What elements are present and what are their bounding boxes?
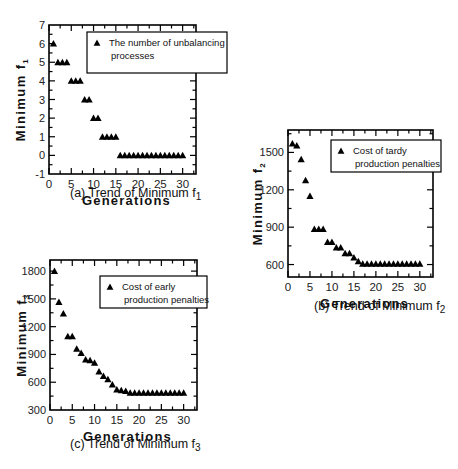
x-tick-label: 20 <box>133 414 146 426</box>
y-tick-label: 300 <box>28 404 46 416</box>
y-tick-label: 7 <box>39 19 45 31</box>
x-tick-label: 20 <box>369 281 382 293</box>
x-tick-label: 0 <box>46 178 52 190</box>
x-tick-label: 15 <box>348 281 361 293</box>
data-point <box>55 299 62 305</box>
svg-text:Minimum f3: Minimum f3 <box>14 293 31 376</box>
data-point <box>180 389 187 395</box>
legend-label: Cost of early <box>122 281 176 292</box>
svg-text:Minimum f2: Minimum f2 <box>250 162 267 245</box>
data-point <box>77 77 84 83</box>
data-point <box>306 192 313 198</box>
x-tick-label: 30 <box>177 414 190 426</box>
y-axis-label: Minimum f3 <box>14 293 31 376</box>
x-tick-label: 5 <box>307 281 313 293</box>
y-axis-label: Minimum f2 <box>250 162 267 245</box>
data-point <box>320 225 327 231</box>
data-point <box>63 59 70 65</box>
caption-b: (b) Trend of Minimum f2 <box>314 299 445 315</box>
svg-text:Minimum f1: Minimum f1 <box>13 58 30 141</box>
data-point <box>60 310 67 316</box>
x-tick-label: 10 <box>88 414 101 426</box>
data-point <box>112 133 119 139</box>
y-tick-label: 0 <box>39 149 45 161</box>
legend-label: processes <box>111 50 155 61</box>
data-point <box>298 156 305 162</box>
data-point <box>302 177 309 183</box>
chart-panel-a: 051015202530-101234567GenerationsMinimum… <box>0 0 240 225</box>
x-tick-label: 25 <box>155 414 168 426</box>
y-tick-label: 5 <box>39 56 45 68</box>
data-point <box>328 239 335 245</box>
y-tick-label: 6 <box>39 38 45 50</box>
x-tick-label: 25 <box>391 281 404 293</box>
caption-c: (c) Trend of Minimum f3 <box>70 437 201 453</box>
chart-panel-c: 051015202530300600900120015001800Generat… <box>0 235 240 469</box>
data-point <box>179 152 186 158</box>
data-point <box>416 260 423 266</box>
data-point <box>69 333 76 339</box>
y-tick-label: 1 <box>39 131 45 143</box>
x-tick-label: 10 <box>326 281 339 293</box>
legend-label: Cost of tardy <box>353 145 407 156</box>
data-point <box>95 368 102 374</box>
x-tick-label: 30 <box>413 281 426 293</box>
data-point <box>337 244 344 250</box>
plot-c: 051015202530300600900120015001800Generat… <box>0 235 240 469</box>
data-point <box>94 115 101 121</box>
chart-panel-b: 05101520253060090012001500GenerationsMin… <box>240 110 458 335</box>
x-tick-label: 15 <box>110 414 123 426</box>
y-tick-label: 1500 <box>260 146 284 158</box>
y-tick-label: 900 <box>28 348 46 360</box>
data-point <box>73 345 80 351</box>
y-tick-label: 3 <box>39 94 45 106</box>
data-point <box>346 250 353 256</box>
x-tick-label: 5 <box>69 414 75 426</box>
x-tick-label: 0 <box>47 414 53 426</box>
y-tick-label: 4 <box>39 75 45 87</box>
legend-label: The number of unbalancing <box>109 37 225 48</box>
data-point <box>85 96 92 102</box>
y-tick-label: 600 <box>28 376 46 388</box>
y-tick-label: 1800 <box>22 265 46 277</box>
caption-a: (a) Trend of Minimum f1 <box>70 186 201 202</box>
y-tick-label: -1 <box>35 168 45 180</box>
y-axis-label: Minimum f1 <box>13 58 30 141</box>
y-tick-label: 600 <box>266 259 284 271</box>
x-tick-label: 0 <box>285 281 291 293</box>
legend-label: production penalties <box>355 158 440 169</box>
y-tick-label: 900 <box>266 221 284 233</box>
y-tick-label: 2 <box>39 112 45 124</box>
legend-label: production penalties <box>124 294 209 305</box>
